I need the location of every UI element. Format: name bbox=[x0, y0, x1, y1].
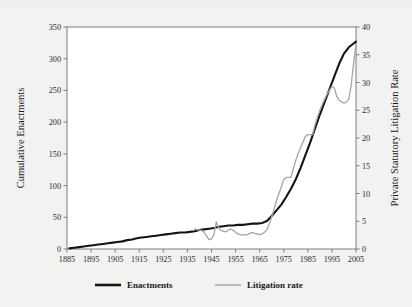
y-tick-label-right: 0 bbox=[362, 245, 366, 254]
chart-figure: 1885189519051915192519351945195519651975… bbox=[0, 0, 412, 307]
y-axis-title-right: Private Statutory Litigation Rate bbox=[389, 69, 400, 206]
chart-canvas: 1885189519051915192519351945195519651975… bbox=[0, 0, 412, 307]
y-tick-label-left: 50 bbox=[53, 213, 61, 222]
x-tick-label: 1945 bbox=[203, 255, 219, 264]
y-tick-label-left: 0 bbox=[57, 245, 61, 254]
y-tick-label-right: 10 bbox=[362, 190, 370, 199]
x-tick-label: 1895 bbox=[83, 255, 99, 264]
legend-label-litigation-rate: Litigation rate bbox=[247, 280, 303, 290]
y-tick-label-right: 5 bbox=[362, 217, 366, 226]
cropped-caption-strip bbox=[0, 0, 412, 8]
x-tick-label: 1915 bbox=[131, 255, 147, 264]
y-tick-label-left: 200 bbox=[49, 118, 61, 127]
y-tick-label-left: 150 bbox=[49, 150, 61, 159]
y-tick-label-right: 20 bbox=[362, 134, 370, 143]
y-tick-label-right: 40 bbox=[362, 23, 370, 32]
x-tick-label: 1965 bbox=[251, 255, 267, 264]
y-tick-label-left: 350 bbox=[49, 23, 61, 32]
x-tick-label: 1975 bbox=[276, 255, 292, 264]
y-tick-label-right: 25 bbox=[362, 106, 370, 115]
y-axis-title-left: Cumulative Enactments bbox=[15, 88, 26, 189]
x-tick-label: 1935 bbox=[179, 255, 195, 264]
x-tick-label: 1905 bbox=[107, 255, 123, 264]
x-tick-label: 1985 bbox=[300, 255, 316, 264]
legend-label-enactments: Enactments bbox=[127, 280, 173, 290]
y-tick-label-right: 35 bbox=[362, 51, 370, 60]
y-tick-label-left: 300 bbox=[49, 55, 61, 64]
y-tick-label-right: 30 bbox=[362, 79, 370, 88]
y-tick-label-left: 100 bbox=[49, 182, 61, 191]
y-tick-label-right: 15 bbox=[362, 162, 370, 171]
x-tick-label: 1925 bbox=[155, 255, 171, 264]
x-tick-label: 2005 bbox=[348, 255, 364, 264]
y-tick-label-left: 250 bbox=[49, 86, 61, 95]
x-tick-label: 1885 bbox=[59, 255, 75, 264]
x-tick-label: 1995 bbox=[324, 255, 340, 264]
x-tick-label: 1955 bbox=[227, 255, 243, 264]
